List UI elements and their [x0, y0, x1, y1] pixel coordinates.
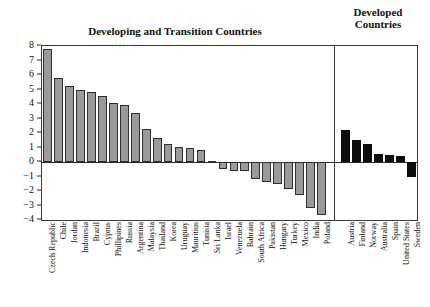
x-axis-tick-label: Venezuela	[236, 222, 244, 255]
x-axis-tick-label: Uruguay	[181, 222, 189, 250]
bar	[251, 162, 260, 179]
bar	[109, 103, 118, 162]
x-axis-tick-label: Brazil	[93, 222, 101, 242]
bar	[186, 148, 195, 163]
x-axis-tick-label: Korea	[170, 222, 178, 242]
bar	[352, 140, 361, 162]
bar	[341, 130, 350, 162]
y-tick-label: −4	[23, 214, 34, 224]
x-axis-tick-label: Bahrain	[247, 222, 255, 247]
x-axis-tick-label: Czech Republic	[49, 222, 57, 273]
bar	[284, 162, 293, 189]
x-axis-tick-label: Cyprus	[104, 222, 112, 245]
x-axis-tick-label: United States	[403, 222, 411, 265]
bar	[87, 92, 96, 162]
x-axis-labels: Czech RepublicChileJordanIndonesiaBrazil…	[41, 222, 418, 307]
group-divider	[334, 46, 335, 220]
x-axis-tick-label: Chile	[60, 222, 68, 239]
x-axis-tick-label: South Africa	[258, 222, 266, 263]
x-axis-tick-label: Austria	[348, 222, 356, 246]
x-axis-tick-label: Australia	[381, 222, 389, 251]
bar	[208, 161, 217, 163]
x-axis-tick-label: Pakistan	[269, 222, 277, 249]
y-tick-label: −1	[23, 171, 34, 181]
bar	[98, 96, 107, 162]
bar	[175, 147, 184, 162]
x-axis-tick-label: Indonesia	[82, 222, 90, 253]
y-tick-label: 2	[29, 127, 34, 137]
bar	[363, 144, 372, 162]
x-axis-tick-label: Spain	[392, 222, 400, 240]
x-axis-tick-label: Thailand	[159, 222, 167, 250]
x-axis-tick-label: Hungary	[280, 222, 288, 250]
x-axis-tick-label: India	[313, 222, 321, 238]
bar	[142, 129, 151, 162]
x-axis-tick-label: Argentina	[137, 222, 145, 254]
x-axis-tick-label: Russia	[126, 222, 134, 243]
y-tick-label: 8	[29, 40, 34, 50]
x-axis-tick-label: Tunisia	[203, 222, 211, 246]
bar	[131, 113, 140, 162]
bar	[230, 162, 239, 171]
bar	[385, 155, 394, 162]
bar	[164, 144, 173, 162]
chart-figure: Developing and Transition Countries Deve…	[0, 0, 430, 307]
y-tick-label: 0	[29, 156, 34, 166]
y-tick-label: 4	[29, 98, 34, 108]
y-tick-label: −2	[23, 185, 34, 195]
chart-title-developing: Developing and Transition Countries	[45, 25, 305, 37]
x-axis-tick-label: Mauritius	[192, 222, 200, 253]
bar	[54, 78, 63, 162]
x-axis-tick-label: Norway	[370, 222, 378, 248]
bar	[120, 105, 129, 162]
y-tick-label: 6	[29, 69, 34, 79]
x-axis-tick-label: Sri Lanka	[214, 222, 222, 253]
bar	[317, 162, 326, 215]
bar	[240, 162, 249, 171]
bar	[407, 162, 416, 177]
x-axis-tick-label: Malaysia	[148, 222, 156, 251]
bar	[396, 156, 405, 162]
bar	[262, 162, 271, 182]
y-tick-label: 1	[29, 142, 34, 152]
bar	[65, 86, 74, 162]
chart-title-developed: Developed Countries	[330, 6, 426, 30]
y-tick-label: 3	[29, 113, 34, 123]
bar	[197, 150, 206, 162]
bar	[273, 162, 282, 184]
x-axis-tick-label: Jordan	[71, 222, 79, 243]
bar	[374, 154, 383, 162]
bar	[43, 49, 52, 162]
x-axis-tick-label: Finland	[359, 222, 367, 246]
bar	[295, 162, 304, 195]
y-tick-label: 7	[29, 55, 34, 65]
bar	[76, 90, 85, 162]
x-axis-tick-label: Sweden	[414, 222, 422, 247]
x-axis-tick-label: Israel	[225, 222, 233, 240]
bar	[306, 162, 315, 208]
y-tick-label: 5	[29, 84, 34, 94]
y-tick-label: −3	[23, 200, 34, 210]
x-axis-tick-label: Mexico	[302, 222, 310, 246]
y-axis: 876543210−1−2−3−4	[0, 45, 41, 221]
x-axis-tick-label: Turkey	[291, 222, 299, 245]
plot-area	[41, 45, 418, 221]
bar	[219, 162, 228, 169]
x-axis-tick-label: Phillipines	[115, 222, 123, 256]
bar	[153, 138, 162, 162]
x-axis-tick-label: Poland	[324, 222, 332, 244]
